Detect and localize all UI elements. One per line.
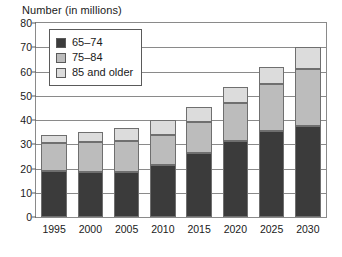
bar-group [150, 23, 175, 217]
legend-item: 75–84 [56, 50, 133, 65]
bar-segment [186, 122, 211, 152]
bar-segment [41, 171, 66, 217]
bar-segment [78, 132, 103, 142]
bar-segment [259, 84, 284, 131]
legend-item: 85 and older [56, 65, 133, 80]
y-tick-mark-10 [32, 192, 36, 193]
legend-swatch-icon [56, 53, 66, 63]
y-tick-mark-50 [32, 95, 36, 96]
legend-item-label: 85 and older [72, 67, 133, 78]
legend-swatch-icon [56, 68, 66, 78]
y-axis-label-80: 80 [20, 17, 32, 29]
y-axis-label-30: 30 [20, 138, 32, 150]
y-axis-label-0: 0 [26, 211, 32, 223]
stacked-bar-chart-figure: Number (in millions) 01020304050607080 1… [0, 0, 342, 257]
bar-segment [114, 141, 139, 173]
bar-group [223, 23, 248, 217]
y-axis-label-40: 40 [20, 114, 32, 126]
bar-group [295, 23, 320, 217]
bar-segment [150, 120, 175, 135]
bar-group [259, 23, 284, 217]
y-axis-label-20: 20 [20, 163, 32, 175]
bar-segment [223, 103, 248, 141]
x-axis-label-2030: 2030 [296, 223, 319, 235]
y-tick-mark-20 [32, 168, 36, 169]
bar-segment [78, 172, 103, 217]
bar-segment [223, 141, 248, 217]
x-axis-label-2005: 2005 [115, 223, 138, 235]
bar-segment [295, 126, 320, 217]
y-axis-label-60: 60 [20, 66, 32, 78]
bar-group [186, 23, 211, 217]
y-tick-mark-40 [32, 120, 36, 121]
x-axis-label-2020: 2020 [224, 223, 247, 235]
bar-segment [186, 153, 211, 217]
plot-area: 01020304050607080 1995200020052010201520… [35, 22, 327, 218]
legend-item-label: 65–74 [72, 37, 103, 48]
x-axis-label-2000: 2000 [79, 223, 102, 235]
bar-segment [223, 87, 248, 103]
bar-segment [259, 131, 284, 217]
y-axis-label-50: 50 [20, 90, 32, 102]
bar-segment [41, 143, 66, 171]
y-tick-mark-60 [32, 71, 36, 72]
bar-segment [295, 69, 320, 126]
bar-segment [150, 135, 175, 165]
x-axis-label-2010: 2010 [151, 223, 174, 235]
bar-segment [186, 107, 211, 123]
bar-segment [150, 165, 175, 217]
legend-item: 65–74 [56, 35, 133, 50]
chart-title: Number (in millions) [22, 4, 122, 16]
y-tick-mark-0 [32, 217, 36, 218]
bar-segment [41, 135, 66, 143]
bar-segment [114, 128, 139, 140]
chart-legend: 65–7475–8485 and older [49, 29, 142, 86]
bar-segment [259, 67, 284, 84]
y-tick-mark-30 [32, 144, 36, 145]
y-tick-mark-70 [32, 47, 36, 48]
bar-segment [114, 172, 139, 217]
y-axis-label-10: 10 [20, 187, 32, 199]
y-axis-label-70: 70 [20, 41, 32, 53]
legend-item-label: 75–84 [72, 52, 103, 63]
y-tick-mark-80 [32, 23, 36, 24]
x-axis-label-2015: 2015 [187, 223, 210, 235]
x-axis-label-1995: 1995 [42, 223, 65, 235]
bar-segment [295, 47, 320, 69]
legend-swatch-icon [56, 38, 66, 48]
bar-segment [78, 142, 103, 172]
x-axis-label-2025: 2025 [260, 223, 283, 235]
